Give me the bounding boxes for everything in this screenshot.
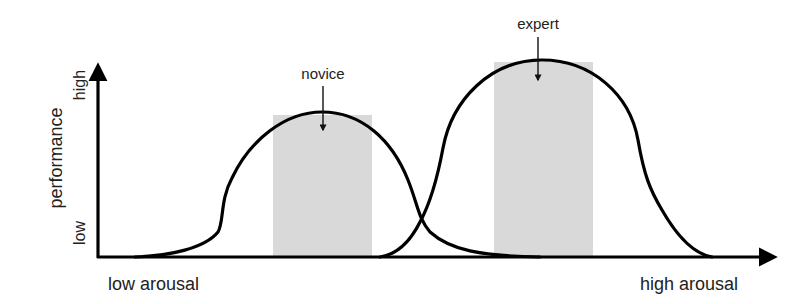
y-axis-low-label: low [71,221,88,245]
expert-label: expert [517,15,560,32]
x-axis-high-label: high arousal [640,274,738,294]
y-axis-high-label: high [71,70,88,100]
arousal-performance-diagram: novice expert low arousal high arousal p… [0,0,807,304]
y-axis-title: performance [46,107,66,208]
novice-label: novice [301,65,344,82]
expert-optimal-zone [494,62,593,257]
x-axis-low-label: low arousal [108,274,199,294]
novice-optimal-zone [273,115,372,257]
